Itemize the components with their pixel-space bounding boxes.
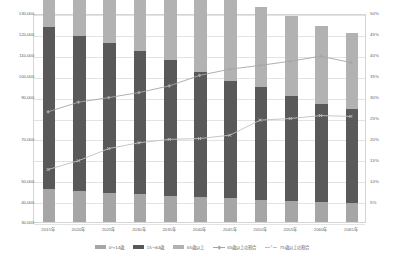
plot-area	[33, 14, 366, 223]
legend-marker	[217, 245, 221, 249]
bar-group	[73, 13, 86, 222]
x-axis-tick-label: 2035年	[154, 226, 184, 232]
bar-segment	[73, 0, 86, 36]
bar-group	[164, 13, 177, 222]
left-axis-tick-label: 70,000	[0, 137, 34, 142]
bar-segment	[285, 16, 298, 96]
bar-segment	[134, 0, 147, 51]
bar-segment	[315, 104, 328, 202]
x-axis-labels: 2015年2020年2025年2030年2035年2040年2045年2050年…	[33, 226, 366, 238]
bar-segment	[255, 200, 268, 223]
legend-swatch-bar	[133, 245, 144, 249]
population-projection-chart: 130,000120,000110,000100,00090,00070,000…	[0, 0, 404, 261]
legend-label: 75歳以上の割合	[280, 244, 309, 250]
x-axis-tick-label: 2045年	[215, 226, 245, 232]
right-axis-tick-label: 40%	[370, 53, 402, 58]
x-axis-tick-label: 2055年	[275, 226, 305, 232]
bars-layer	[34, 15, 365, 222]
legend-marker: ×	[270, 246, 273, 249]
bar-segment	[194, 0, 207, 72]
bar-segment	[103, 43, 116, 193]
left-axis-tick-label: 30,000	[0, 220, 34, 225]
legend-item[interactable]: 15～64歳	[133, 244, 164, 250]
left-axis-tick-label: 50,000	[0, 179, 34, 184]
bar-group	[224, 13, 237, 222]
right-axis-tick-label: 10%	[370, 179, 402, 184]
x-axis-tick-label: 2060年	[305, 226, 335, 232]
bar-segment	[73, 191, 86, 223]
right-axis-tick-label: 30%	[370, 95, 402, 100]
legend-swatch-line: ×	[265, 245, 277, 249]
left-axis-tick-label: 130,000	[0, 11, 34, 16]
bar-segment	[346, 109, 359, 204]
right-axis-tick-label: 35%	[370, 74, 402, 79]
right-axis-tick-label: 50%	[370, 11, 402, 16]
left-axis-tick-label: 40,000	[0, 200, 34, 205]
bar-segment	[285, 201, 298, 222]
x-axis-tick-label: 2015年	[33, 226, 63, 232]
left-axis-tick-label: 110,000	[0, 53, 34, 58]
right-axis-tick-label: 15%	[370, 158, 402, 163]
left-axis-tick-label: 90,000	[0, 95, 34, 100]
legend-label: 0～14歳	[109, 244, 124, 250]
x-axis-tick-label: 2040年	[184, 226, 214, 232]
right-axis-tick-label: 5%	[370, 200, 402, 205]
x-axis-tick-label: 2020年	[63, 226, 93, 232]
bar-segment	[194, 72, 207, 197]
bar-segment	[285, 96, 298, 201]
bar-segment	[194, 197, 207, 222]
x-axis-tick-label: 2030年	[124, 226, 154, 232]
bar-segment	[164, 0, 177, 60]
legend-item[interactable]: 65歳以上の割合	[213, 244, 256, 250]
bar-segment	[255, 87, 268, 199]
bar-segment	[224, 0, 237, 81]
bar-segment	[315, 26, 328, 104]
legend-swatch-line	[213, 245, 225, 249]
bar-segment	[134, 51, 147, 195]
bar-group	[43, 13, 56, 222]
bar-segment	[164, 60, 177, 196]
bar-segment	[346, 33, 359, 109]
right-axis-tick-label: 20%	[370, 137, 402, 142]
left-axis-tick-label: 120,000	[0, 32, 34, 37]
bar-segment	[73, 36, 86, 191]
x-axis-tick-label: 2025年	[94, 226, 124, 232]
bar-group	[346, 13, 359, 222]
bar-segment	[255, 7, 268, 87]
legend-label: 65歳以上	[187, 244, 204, 250]
bar-segment	[103, 0, 116, 43]
legend-item[interactable]: ×75歳以上の割合	[265, 244, 308, 250]
bar-segment	[43, 0, 56, 27]
right-axis-tick-label: 45%	[370, 32, 402, 37]
bar-segment	[103, 193, 116, 222]
legend-item[interactable]: 65歳以上	[173, 244, 203, 250]
bar-segment	[164, 196, 177, 222]
x-axis-tick-label: 2065年	[336, 226, 366, 232]
bar-segment	[134, 194, 147, 222]
bar-segment	[346, 203, 359, 222]
bar-group	[194, 13, 207, 222]
bar-segment	[43, 27, 56, 189]
bar-group	[134, 13, 147, 222]
legend-swatch-bar	[173, 245, 184, 249]
left-axis-tick-label: 100,000	[0, 74, 34, 79]
bar-segment	[224, 198, 237, 222]
bar-segment	[43, 189, 56, 222]
right-axis-tick-label: 25%	[370, 116, 402, 121]
bar-segment	[315, 202, 328, 222]
gridline	[34, 224, 365, 225]
bar-segment	[224, 81, 237, 199]
x-axis-tick-label: 2050年	[245, 226, 275, 232]
legend-label: 15～64歳	[147, 244, 165, 250]
legend-label: 65歳以上の割合	[227, 244, 256, 250]
bar-group	[255, 13, 268, 222]
legend-swatch-bar	[95, 245, 106, 249]
bar-group	[285, 13, 298, 222]
chart-legend: 0～14歳15～64歳65歳以上65歳以上の割合×75歳以上の割合	[0, 244, 404, 250]
bar-group	[315, 13, 328, 222]
legend-item[interactable]: 0～14歳	[95, 244, 124, 250]
bar-group	[103, 13, 116, 222]
